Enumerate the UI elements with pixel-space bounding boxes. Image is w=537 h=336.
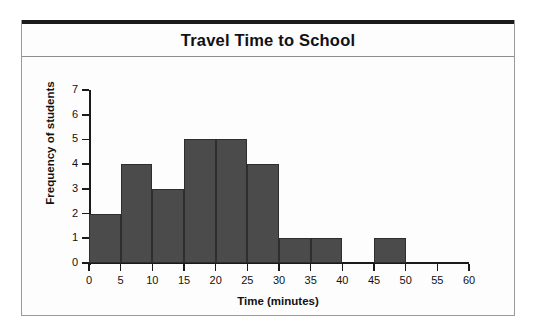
x-tick-label-45: 45 [361, 274, 387, 286]
x-tick-label-50: 50 [393, 274, 419, 286]
x-tick-label-0: 0 [76, 274, 102, 286]
x-tick-label-35: 35 [298, 274, 324, 286]
y-tick-label-7: 7 [62, 83, 78, 95]
y-tick-5 [82, 139, 89, 141]
y-tick-4 [82, 163, 89, 165]
y-tick-label-6: 6 [62, 108, 78, 120]
y-axis-title: Frequency of students [44, 68, 56, 218]
y-tick-label-5: 5 [62, 132, 78, 144]
x-tick-label-15: 15 [171, 274, 197, 286]
histogram-bar [121, 164, 153, 263]
x-tick-label-30: 30 [266, 274, 292, 286]
y-tick-label-0: 0 [62, 256, 78, 268]
histogram-bar [216, 139, 248, 263]
x-tick-label-55: 55 [424, 274, 450, 286]
y-tick-label-3: 3 [62, 182, 78, 194]
x-tick-label-5: 5 [108, 274, 134, 286]
x-tick-45 [373, 264, 375, 271]
histogram-bar [279, 238, 311, 263]
x-axis-title: Time (minutes) [89, 295, 467, 307]
x-tick-label-40: 40 [329, 274, 355, 286]
y-tick-7 [82, 89, 89, 91]
figure-panel: Travel Time to School Frequency of stude… [21, 20, 515, 316]
x-tick-55 [437, 264, 439, 271]
histogram-bar [247, 164, 279, 263]
chart-title: Travel Time to School [181, 31, 355, 50]
x-tick-label-20: 20 [203, 274, 229, 286]
x-tick-0 [88, 264, 90, 271]
figure-title-bar: Travel Time to School [22, 24, 514, 57]
x-tick-25 [247, 264, 249, 271]
y-tick-6 [82, 114, 89, 116]
x-tick-15 [183, 264, 185, 271]
x-tick-50 [405, 264, 407, 271]
x-tick-35 [310, 264, 312, 271]
x-tick-40 [342, 264, 344, 271]
x-tick-20 [215, 264, 217, 271]
x-tick-label-25: 25 [234, 274, 260, 286]
y-tick-label-1: 1 [62, 231, 78, 243]
plot-area: Frequency of students Time (minutes) 012… [22, 57, 514, 315]
y-tick-label-4: 4 [62, 157, 78, 169]
histogram-bar [89, 214, 121, 263]
y-tick-1 [82, 237, 89, 239]
x-tick-30 [278, 264, 280, 271]
histogram-bar [152, 189, 184, 263]
histogram-bar [184, 139, 216, 263]
y-tick-2 [82, 213, 89, 215]
x-tick-60 [468, 264, 470, 271]
x-tick-5 [120, 264, 122, 271]
x-tick-label-60: 60 [456, 274, 482, 286]
y-tick-label-2: 2 [62, 207, 78, 219]
histogram-bar [311, 238, 343, 263]
x-tick-label-10: 10 [139, 274, 165, 286]
histogram-bar [374, 238, 406, 263]
y-tick-3 [82, 188, 89, 190]
x-tick-10 [152, 264, 154, 271]
